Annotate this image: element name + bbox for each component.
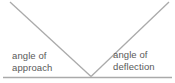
deflection-label-line1: angle of <box>113 49 148 60</box>
angle-diagram: angle of approach angle of deflection <box>0 0 175 83</box>
deflection-label-line2: deflection <box>113 61 155 72</box>
approach-label-line2: approach <box>12 62 52 73</box>
diagram-canvas: angle of approach angle of deflection <box>0 0 175 83</box>
approach-label-line1: angle of <box>12 50 47 61</box>
